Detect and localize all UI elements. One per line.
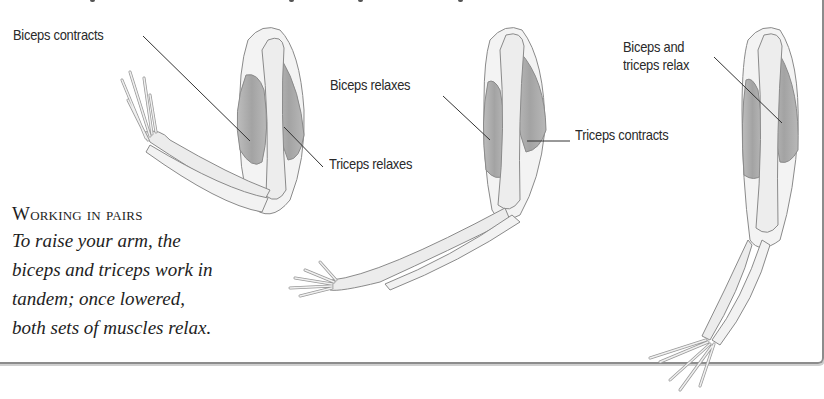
- label-both-relax-line1: Biceps and: [623, 38, 684, 55]
- label-triceps-contracts: Triceps contracts: [575, 126, 668, 143]
- caption-line: both sets of muscles relax.: [12, 313, 302, 342]
- arm-relaxed: [650, 28, 798, 390]
- arm-flexed: [122, 28, 304, 214]
- caption-title: Working in pairs: [12, 203, 143, 225]
- caption-line: To raise your arm, the: [12, 226, 302, 255]
- label-biceps-relaxes: Biceps relaxes: [330, 76, 410, 93]
- caption-line: biceps and triceps work in: [12, 255, 302, 284]
- caption-body: To raise your arm, the biceps and tricep…: [12, 226, 302, 342]
- label-triceps-relaxes: Triceps relaxes: [329, 155, 412, 172]
- label-both-relax-line2: triceps relax: [623, 56, 689, 73]
- label-biceps-contracts: Biceps contracts: [13, 26, 104, 43]
- caption-line: tandem; once lowered,: [12, 284, 302, 313]
